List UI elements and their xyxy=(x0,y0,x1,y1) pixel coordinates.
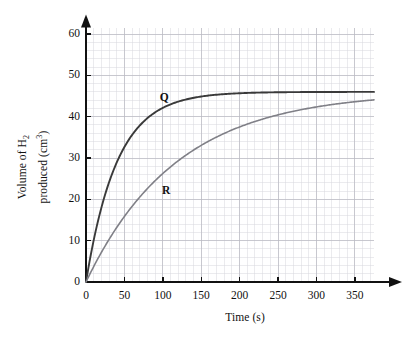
curve-q xyxy=(86,92,374,282)
y-tick-label: 10 xyxy=(56,234,80,246)
y-tick-label: 40 xyxy=(56,110,80,122)
y-tick-label: 30 xyxy=(56,151,80,163)
chart-figure: Volume of H2 produced (cm3) Time (s) 050… xyxy=(0,0,410,342)
curve-label-q: Q xyxy=(160,91,169,103)
x-tick-label: 150 xyxy=(186,289,216,301)
y-tick-label: 0 xyxy=(56,275,80,287)
x-tick-label: 250 xyxy=(263,289,293,301)
y-axis-title-line1: Volume of H2 xyxy=(16,87,33,247)
x-tick-label: 350 xyxy=(340,289,370,301)
x-tick-label: 0 xyxy=(71,289,101,301)
data-curves xyxy=(86,92,374,282)
grid-major xyxy=(86,28,374,282)
grid-minor xyxy=(86,28,374,282)
x-tick-label: 100 xyxy=(148,289,178,301)
y-axis-title: Volume of H2 produced (cm3) xyxy=(16,87,50,247)
curve-label-r: R xyxy=(162,184,170,196)
y-tick-label: 20 xyxy=(56,192,80,204)
y-axis-title-subscript: 2 xyxy=(22,135,31,139)
x-tick-label: 50 xyxy=(109,289,139,301)
y-axis-title-line2: produced (cm3) xyxy=(33,87,50,247)
axis-lines xyxy=(81,15,402,287)
y-axis-title-superscript: 3 xyxy=(35,135,44,139)
x-axis-title: Time (s) xyxy=(160,311,330,323)
y-tick-label: 60 xyxy=(56,27,80,39)
x-tick-label: 300 xyxy=(301,289,331,301)
y-tick-label: 50 xyxy=(56,68,80,80)
x-tick-label: 200 xyxy=(225,289,255,301)
